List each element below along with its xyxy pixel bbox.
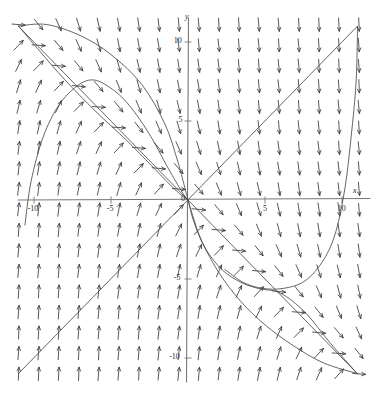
field-arrow xyxy=(217,79,220,92)
field-arrow xyxy=(97,265,100,278)
field-arrow xyxy=(17,326,20,339)
field-arrow xyxy=(296,265,302,277)
field-arrow xyxy=(198,306,201,319)
field-arrow xyxy=(197,141,202,154)
field-arrow xyxy=(237,162,241,174)
field-arrow xyxy=(77,203,80,216)
field-arrow xyxy=(276,245,282,257)
field-arrow xyxy=(156,121,161,133)
field-arrow xyxy=(217,39,220,52)
field-arrow xyxy=(155,184,164,194)
field-arrow xyxy=(257,182,261,195)
field-arrow xyxy=(77,347,80,360)
field-arrow xyxy=(97,244,100,257)
field-arrow xyxy=(278,183,281,196)
field-arrow xyxy=(57,367,60,380)
field-arrow xyxy=(295,287,303,297)
field-arrow xyxy=(157,326,160,339)
origin-label: 0 xyxy=(181,194,185,203)
field-arrow xyxy=(217,306,221,319)
field-arrow xyxy=(315,349,324,358)
field-arrow xyxy=(137,203,141,215)
field-arrow xyxy=(135,122,143,132)
field-arrow xyxy=(157,224,161,237)
field-arrow xyxy=(334,328,343,338)
field-arrow xyxy=(297,100,300,113)
x-tick-label-10: 10 xyxy=(338,204,346,213)
field-arrow xyxy=(138,224,141,236)
field-arrow xyxy=(137,80,141,92)
field-arrow xyxy=(34,61,43,71)
field-arrow xyxy=(197,367,200,380)
field-arrow xyxy=(277,80,280,93)
field-arrow xyxy=(237,18,240,31)
field-arrow xyxy=(277,347,281,359)
field-arrow xyxy=(237,39,240,52)
field-arrow xyxy=(77,367,80,380)
field-arrow xyxy=(16,60,22,72)
field-arrow xyxy=(177,18,180,31)
field-arrow xyxy=(357,100,360,113)
field-arrow xyxy=(14,40,23,50)
field-arrow xyxy=(238,326,241,339)
field-arrow xyxy=(37,367,40,380)
field-arrow xyxy=(17,80,22,93)
field-arrow xyxy=(215,205,223,215)
axes xyxy=(18,18,370,382)
field-arrow xyxy=(356,327,362,339)
field-arrow xyxy=(337,121,340,134)
field-arrow xyxy=(57,162,61,174)
field-arrow xyxy=(17,182,20,195)
field-arrow xyxy=(257,367,261,380)
field-arrow xyxy=(177,59,180,72)
field-arrow xyxy=(74,61,82,71)
field-arrow xyxy=(236,204,241,216)
field-arrow xyxy=(238,121,241,134)
field-arrow xyxy=(77,326,80,339)
field-arrow xyxy=(37,244,40,257)
field-arrow xyxy=(37,306,40,319)
field-arrow xyxy=(157,347,160,360)
field-arrow xyxy=(218,347,221,360)
field-arrow xyxy=(57,121,61,134)
field-arrow xyxy=(316,368,321,380)
field-arrow xyxy=(317,18,320,31)
field-arrow xyxy=(36,80,42,92)
field-arrow xyxy=(17,121,20,134)
field-arrow xyxy=(277,60,280,73)
field-arrow xyxy=(137,306,140,319)
field-arrow xyxy=(134,164,143,173)
field-arrow xyxy=(196,162,201,174)
field-arrow xyxy=(157,285,160,298)
field-arrow xyxy=(138,39,141,52)
field-arrow xyxy=(338,162,341,175)
field-arrow xyxy=(217,141,221,154)
field-arrow xyxy=(117,183,121,196)
field-arrow xyxy=(77,285,80,298)
field-arrow xyxy=(177,101,181,114)
field-arrow xyxy=(97,183,101,196)
field-arrow xyxy=(297,121,300,134)
field-arrow xyxy=(116,162,121,174)
field-arrow xyxy=(17,285,20,298)
field-arrow xyxy=(217,285,222,298)
y-tick-label--5: -5 xyxy=(174,273,181,282)
field-arrow xyxy=(96,60,102,72)
field-arrow xyxy=(178,306,181,319)
field-arrow xyxy=(17,306,20,319)
field-arrow xyxy=(157,100,161,113)
field-arrow xyxy=(77,224,80,237)
field-arrow xyxy=(317,39,320,52)
field-arrow xyxy=(358,285,361,298)
field-arrow xyxy=(136,183,142,195)
field-arrow xyxy=(54,82,63,91)
field-arrow xyxy=(54,40,62,50)
field-arrow xyxy=(118,224,121,236)
field-arrow xyxy=(297,244,301,256)
field-arrow xyxy=(17,347,20,360)
field-arrow xyxy=(318,183,321,196)
field-arrow xyxy=(357,306,361,318)
field-arrow xyxy=(198,80,201,93)
field-arrow xyxy=(237,347,241,360)
field-arrow xyxy=(97,326,100,339)
